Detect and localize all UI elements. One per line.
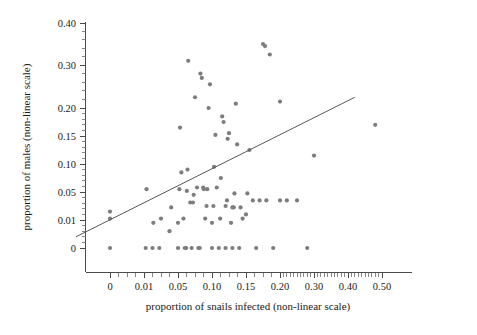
data-point — [264, 198, 268, 202]
data-point — [203, 217, 207, 221]
data-point — [278, 198, 282, 202]
y-tick-label: 0.15 — [58, 131, 76, 142]
data-point — [195, 185, 199, 189]
scatter-plot-figure: 00.010.050.100.150.200.300.40 00.010.050… — [0, 0, 477, 335]
data-point — [186, 59, 190, 63]
x-tick-label: 0.50 — [373, 281, 391, 292]
data-point — [220, 114, 224, 118]
data-point — [108, 210, 112, 214]
data-points — [108, 42, 377, 250]
data-point — [215, 185, 219, 189]
y-axis-minor-ticks — [82, 31, 86, 242]
data-point — [226, 137, 230, 141]
data-point — [373, 123, 377, 127]
data-point — [241, 217, 245, 221]
data-point — [205, 187, 209, 191]
data-point — [268, 52, 272, 56]
x-tick-label: 0.30 — [305, 281, 323, 292]
data-point — [305, 246, 309, 250]
data-point — [179, 170, 183, 174]
data-point — [150, 246, 154, 250]
data-point — [312, 154, 316, 158]
data-point — [198, 72, 202, 76]
y-axis-tick-labels: 00.010.050.100.150.200.300.40 — [58, 18, 76, 254]
data-point — [108, 246, 112, 250]
data-point — [217, 246, 221, 250]
data-point — [263, 44, 267, 48]
y-tick-label: 0.30 — [58, 60, 76, 71]
data-point — [213, 133, 217, 137]
data-point — [232, 191, 236, 195]
data-point — [227, 131, 231, 135]
data-point — [285, 198, 289, 202]
data-point — [208, 82, 212, 86]
y-tick-label: 0 — [71, 243, 76, 254]
data-point — [258, 198, 262, 202]
data-point — [144, 246, 148, 250]
data-point — [181, 217, 185, 221]
data-point — [295, 198, 299, 202]
data-point — [278, 99, 282, 103]
data-point — [271, 246, 275, 250]
data-point — [159, 217, 163, 221]
data-point — [221, 120, 225, 124]
y-tick-label: 0.01 — [58, 215, 76, 226]
y-tick-label: 0.05 — [58, 187, 76, 198]
data-point — [193, 95, 197, 99]
data-point — [190, 246, 194, 250]
data-point — [210, 246, 214, 250]
x-tick-label: 0.10 — [203, 281, 221, 292]
data-point — [185, 168, 189, 172]
data-point — [157, 246, 161, 250]
y-tick-label: 0.10 — [58, 159, 76, 170]
y-tick-label: 0.40 — [58, 18, 76, 29]
data-point — [225, 198, 229, 202]
data-point — [184, 246, 188, 250]
data-point — [251, 198, 255, 202]
data-point — [230, 246, 234, 250]
data-point — [245, 191, 249, 195]
data-point — [244, 212, 248, 216]
x-axis-tick-labels: 00.010.050.100.150.200.300.400.50 — [107, 281, 391, 292]
data-point — [192, 193, 196, 197]
data-point — [176, 221, 180, 225]
x-tick-label: 0.05 — [169, 281, 187, 292]
x-axis-title: proportion of snails infected (non-linea… — [146, 300, 351, 313]
x-tick-label: 0 — [107, 281, 112, 292]
data-point — [224, 246, 228, 250]
data-point — [224, 204, 228, 208]
data-point — [176, 246, 180, 250]
x-tick-label: 0.15 — [237, 281, 255, 292]
data-point — [169, 205, 173, 209]
data-point — [178, 126, 182, 130]
plot-canvas: 00.010.050.100.150.200.300.40 00.010.050… — [0, 0, 477, 335]
data-point — [232, 205, 236, 209]
x-tick-label: 0.40 — [339, 281, 357, 292]
data-point — [235, 142, 239, 146]
data-point — [200, 76, 204, 80]
data-point — [191, 200, 195, 204]
x-axis-minor-ticks — [119, 273, 379, 277]
data-point — [177, 187, 181, 191]
data-point — [211, 204, 215, 208]
data-point — [167, 229, 171, 233]
data-point — [207, 106, 211, 110]
x-tick-label: 0.01 — [135, 281, 153, 292]
data-point — [210, 221, 214, 225]
y-tick-label: 0.20 — [58, 103, 76, 114]
data-point — [218, 217, 222, 221]
y-axis-title: proportion of males (non-linear scale) — [20, 63, 33, 230]
data-point — [185, 189, 189, 193]
data-point — [219, 176, 223, 180]
axes — [86, 22, 413, 273]
data-point — [151, 221, 155, 225]
data-point — [144, 187, 148, 191]
data-point — [229, 221, 233, 225]
regression-line — [76, 97, 355, 237]
data-point — [237, 246, 241, 250]
data-point — [238, 205, 242, 209]
data-point — [204, 204, 208, 208]
data-point — [254, 246, 258, 250]
data-point — [234, 102, 238, 106]
data-point — [198, 246, 202, 250]
